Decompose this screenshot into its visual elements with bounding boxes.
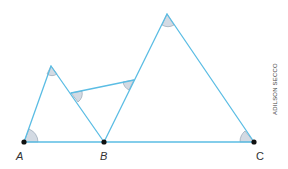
segment-left-apex-b: [51, 66, 104, 142]
point-a: [21, 139, 26, 144]
figure-lines: [24, 14, 254, 142]
segment-a-left-apex: [24, 66, 51, 142]
geometry-figure: A B C ADILSON SECCO: [0, 0, 288, 169]
label-c: C: [256, 150, 264, 162]
label-a: A: [15, 150, 23, 162]
segment-b-big-apex: [104, 14, 167, 142]
segment-big-apex-c: [167, 14, 254, 142]
angle-markers: [24, 14, 254, 142]
point-b: [101, 139, 106, 144]
image-credit: ADILSON SECCO: [272, 63, 278, 115]
label-b: B: [100, 150, 107, 162]
point-c: [251, 139, 256, 144]
